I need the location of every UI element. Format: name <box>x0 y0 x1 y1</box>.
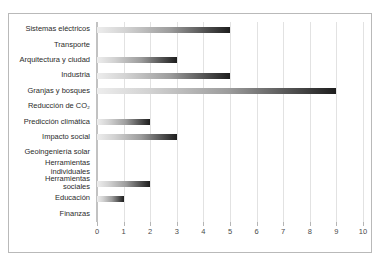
x-tick-label-5: 5 <box>218 227 242 237</box>
y-axis-label: Geoingeniería solar <box>6 148 90 157</box>
x-tick-label-7: 7 <box>271 227 295 237</box>
y-axis-label: Granjas y bosques <box>6 87 90 96</box>
x-tick-label-10: 10 <box>351 227 375 237</box>
y-axis-label: Transporte <box>6 41 90 50</box>
y-axis-labels-group: Sistemas eléctricosTransporteArquitectur… <box>0 22 380 222</box>
x-tick-label-3: 3 <box>165 227 189 237</box>
x-tick-label-6: 6 <box>245 227 269 237</box>
y-axis-label: Predicción climática <box>6 118 90 127</box>
x-tick-label-0: 0 <box>85 227 109 237</box>
x-tick-mark-0 <box>97 222 98 226</box>
y-axis-label: Arquitectura y ciudad <box>6 56 90 65</box>
y-axis-label: Finanzas <box>6 210 90 219</box>
x-tick-mark-5 <box>230 222 231 226</box>
x-tick-mark-6 <box>257 222 258 226</box>
x-tick-mark-7 <box>283 222 284 226</box>
x-tick-label-2: 2 <box>138 227 162 237</box>
y-axis-label: Industria <box>6 71 90 80</box>
y-axis-label: Educación <box>6 194 90 203</box>
x-tick-mark-1 <box>124 222 125 226</box>
y-axis-label: Herramientas sociales <box>6 175 90 192</box>
x-tick-mark-10 <box>363 222 364 226</box>
y-axis-label: Reducción de CO₂ <box>6 102 90 111</box>
x-tick-label-1: 1 <box>112 227 136 237</box>
x-tick-mark-4 <box>203 222 204 226</box>
x-tick-label-9: 9 <box>324 227 348 237</box>
y-axis-label: Sistemas eléctricos <box>6 25 90 34</box>
y-axis-label: Impacto social <box>6 133 90 142</box>
x-tick-label-4: 4 <box>191 227 215 237</box>
bar-chart-figure: 012345678910 Sistemas eléctricosTranspor… <box>0 0 380 265</box>
x-tick-mark-8 <box>310 222 311 226</box>
x-tick-mark-9 <box>336 222 337 226</box>
x-tick-mark-2 <box>150 222 151 226</box>
x-tick-label-8: 8 <box>298 227 322 237</box>
x-tick-mark-3 <box>177 222 178 226</box>
